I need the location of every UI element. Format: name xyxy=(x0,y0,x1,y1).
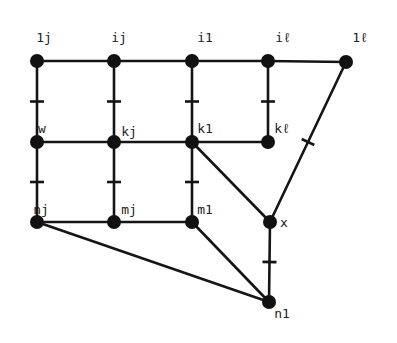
node-label-mj: mj xyxy=(121,202,137,217)
node-label-k1: k1 xyxy=(197,121,213,136)
node-kj xyxy=(107,135,121,149)
edges-layer xyxy=(30,61,346,302)
node-il xyxy=(261,54,275,68)
node-label-1l: 1ℓ xyxy=(352,30,368,45)
node-label-kl: kℓ xyxy=(274,121,290,136)
node-x xyxy=(263,215,277,229)
node-ij xyxy=(107,54,121,68)
graph-diagram: 1jiji1iℓ1ℓwkjk1kℓnjmjm1xn1 xyxy=(0,0,397,343)
edge-il-1l xyxy=(268,61,346,62)
node-label-kj: kj xyxy=(121,124,137,139)
node-label-x: x xyxy=(280,215,288,230)
node-w xyxy=(30,135,44,149)
node-1l xyxy=(339,55,353,69)
node-label-nj: nj xyxy=(33,202,49,217)
node-label-i1: i1 xyxy=(197,30,213,45)
node-label-w: w xyxy=(38,121,46,136)
node-nj xyxy=(30,215,44,229)
node-label-ij: ij xyxy=(111,30,127,45)
node-mj xyxy=(107,215,121,229)
node-label-n1: n1 xyxy=(274,306,290,321)
node-1j xyxy=(30,54,44,68)
node-label-m1: m1 xyxy=(197,202,213,217)
node-i1 xyxy=(185,54,199,68)
node-kl xyxy=(261,135,275,149)
node-label-il: iℓ xyxy=(275,30,291,45)
node-label-1j: 1j xyxy=(36,30,52,45)
edge-nj-n1 xyxy=(37,222,269,302)
node-m1 xyxy=(185,215,199,229)
node-k1 xyxy=(185,135,199,149)
